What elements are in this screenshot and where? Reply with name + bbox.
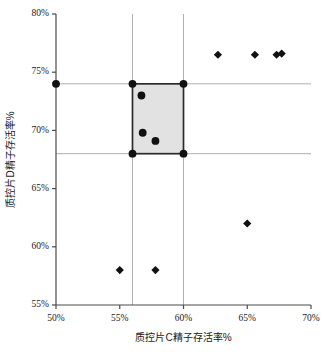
data-point-diamond-6 <box>151 266 159 274</box>
data-point-circle-1 <box>129 80 137 88</box>
x-tick-label-3: 65% <box>239 313 257 323</box>
x-axis-title: 质控片C精子存活率% <box>135 331 231 343</box>
data-point-circle-0 <box>52 80 60 88</box>
y-tick-label-3: 70% <box>32 125 50 135</box>
data-point-circle-5 <box>138 92 146 100</box>
data-point-diamond-1 <box>251 51 259 59</box>
data-point-circle-3 <box>129 150 137 158</box>
data-point-diamond-4 <box>243 219 251 227</box>
data-point-circle-6 <box>139 129 147 137</box>
data-point-circle-2 <box>180 80 188 88</box>
data-point-diamond-5 <box>116 266 124 274</box>
reference-lines <box>56 14 311 305</box>
y-tick-label-0: 55% <box>32 299 50 309</box>
data-point-circle-7 <box>152 137 160 145</box>
plot-canvas: 55%60%65%70%75%80%50%55%60%65%70%质控片C精子存… <box>0 0 324 358</box>
y-tick-label-1: 60% <box>32 241 50 251</box>
y-tick-label-4: 75% <box>32 66 50 76</box>
y-tick-label-2: 65% <box>32 183 50 193</box>
scatter-chart: 55%60%65%70%75%80%50%55%60%65%70%质控片C精子存… <box>0 0 324 358</box>
x-tick-label-2: 60% <box>175 313 193 323</box>
y-tick-label-5: 80% <box>32 8 50 18</box>
x-tick-label-0: 50% <box>47 313 65 323</box>
data-point-diamond-0 <box>214 51 222 59</box>
data-point-circle-4 <box>180 150 188 158</box>
x-tick-label-4: 70% <box>302 313 320 323</box>
y-axis-title: 质控片D精子存活率% <box>4 111 16 207</box>
x-tick-label-1: 55% <box>111 313 129 323</box>
